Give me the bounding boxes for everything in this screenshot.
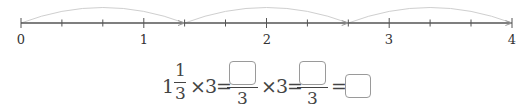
denominator-2: 3 — [307, 90, 318, 107]
answer-blank-numerator-2[interactable] — [299, 61, 326, 85]
times-sign-2: × — [261, 77, 277, 96]
denominator-1: 3 — [237, 90, 248, 107]
label-3: 3 — [385, 32, 393, 47]
mixed-whole: 1 — [162, 77, 174, 96]
label-0: 0 — [17, 32, 25, 47]
mixed-frac-den: 3 — [175, 85, 186, 102]
answer-blank-numerator-1[interactable] — [229, 61, 256, 85]
label-4: 4 — [508, 32, 516, 47]
answer-blank-result[interactable] — [345, 74, 371, 98]
mixed-frac-num: 1 — [175, 62, 186, 79]
label-1: 1 — [140, 32, 148, 47]
label-2: 2 — [263, 32, 271, 47]
times-sign-1: × — [190, 77, 206, 96]
